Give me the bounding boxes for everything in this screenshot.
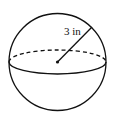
equator-front (9, 62, 106, 74)
radius-label: 3 in (64, 25, 81, 37)
equator-back-dashed (9, 50, 106, 62)
center-point (56, 60, 59, 63)
sphere-diagram: 3 in (0, 0, 114, 115)
